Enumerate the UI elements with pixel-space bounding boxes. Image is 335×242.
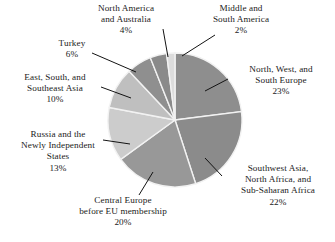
slice-label-nws-europe-line1: North, West, and xyxy=(249,64,312,74)
slice-label-central-europe-pct: 20% xyxy=(49,217,197,228)
slice-label-russia-line1: Russia and the xyxy=(31,129,86,139)
slice-label-nws-europe-line2: South Europe xyxy=(255,75,306,85)
slice-label-southwest-asia-pct: 22% xyxy=(222,197,334,208)
slice-label-central-europe-line2: before EU membership xyxy=(79,206,167,216)
slice-label-nws-europe: North, West, and South Europe 23% xyxy=(229,64,333,98)
slice-label-middle-south-america-line1: Middle and xyxy=(219,3,262,13)
slice-label-turkey: Turkey 6% xyxy=(42,38,102,60)
slice-label-middle-south-america-line2: South America xyxy=(213,14,269,24)
slice-label-central-europe: Central Europe before EU membership 20% xyxy=(49,195,197,229)
leader-line-middle-south-america xyxy=(182,35,215,56)
slice-label-russia-pct: 13% xyxy=(2,163,114,174)
slice-label-southwest-asia: Southwest Asia, North Africa, and Sub-Sa… xyxy=(222,163,334,208)
slice-label-north-america-line1: North America xyxy=(98,3,154,13)
slice-label-russia: Russia and the Newly Independent States … xyxy=(2,129,114,174)
slice-label-southwest-asia-line1: Southwest Asia, xyxy=(248,163,309,173)
pie-chart-figure: North America and Australia 4% Middle an… xyxy=(0,0,335,242)
slice-label-turkey-pct: 6% xyxy=(42,49,102,60)
slice-label-middle-south-america: Middle and South America 2% xyxy=(193,3,289,37)
slice-label-central-europe-line1: Central Europe xyxy=(94,195,151,205)
slice-label-middle-south-america-pct: 2% xyxy=(193,25,289,36)
slice-label-north-america-pct: 4% xyxy=(78,25,174,36)
slice-label-southwest-asia-line3: Sub-Saharan Africa xyxy=(241,185,315,195)
slice-label-southwest-asia-line2: North Africa, and xyxy=(245,174,311,184)
slice-label-nws-europe-pct: 23% xyxy=(229,86,333,97)
slice-label-north-america-line2: and Australia xyxy=(101,14,151,24)
slice-label-north-america: North America and Australia 4% xyxy=(78,3,174,37)
slice-label-russia-line2: Newly Independent xyxy=(21,140,95,150)
slice-label-russia-line3: States xyxy=(47,151,70,161)
slice-label-turkey-line1: Turkey xyxy=(59,38,86,48)
slice-label-east-asia-pct: 10% xyxy=(3,94,107,105)
slice-label-east-asia-line2: Southeast Asia xyxy=(27,83,83,93)
slice-label-east-asia: East, South, and Southeast Asia 10% xyxy=(3,72,107,106)
slice-label-east-asia-line1: East, South, and xyxy=(24,72,85,82)
